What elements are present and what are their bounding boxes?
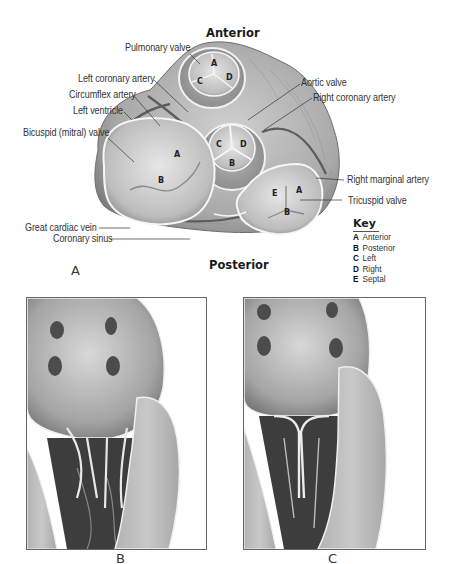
label-right-coronary-artery: Right coronary artery — [313, 91, 396, 103]
valve-open-illustration — [27, 298, 206, 549]
key-legend: Key AAnterior BPosterior CLeft DRight ES… — [353, 213, 402, 285]
label-right-marginal-artery: Right marginal artery — [347, 173, 429, 185]
figure-c-panel — [243, 297, 426, 550]
svg-text:B: B — [284, 208, 290, 217]
svg-text:A: A — [211, 59, 218, 68]
svg-text:D: D — [226, 73, 233, 82]
key-item: ESeptal — [353, 274, 395, 285]
svg-text:D: D — [240, 140, 247, 149]
label-aortic-valve: Aortic valve — [301, 76, 347, 88]
label-circumflex-artery: Circumflex artery — [69, 88, 136, 100]
label-left-ventricle: Left ventricle — [73, 104, 123, 116]
key-label: Posterior — [362, 242, 395, 253]
svg-text:B: B — [158, 176, 164, 185]
key-title: Key — [353, 217, 379, 232]
svg-text:C: C — [216, 140, 222, 149]
label-left-coronary-artery: Left coronary artery — [78, 72, 155, 84]
key-label: Anterior — [362, 231, 391, 242]
figure-b-panel — [26, 297, 207, 550]
label-bicuspid-mitral-valve: Bicuspid (mitral) valve — [23, 126, 109, 138]
key-label: Right — [362, 263, 381, 274]
key-label: Left — [362, 252, 376, 263]
anterior-label: Anterior — [206, 26, 260, 40]
valve-closed-illustration — [244, 298, 425, 549]
key-label: Septal — [362, 273, 385, 284]
pulmonary-valve — [179, 48, 245, 108]
label-tricuspid-valve: Tricuspid valve — [348, 194, 407, 206]
label-pulmonary-valve: Pulmonary valve — [125, 41, 190, 53]
svg-text:E: E — [272, 189, 277, 198]
svg-text:A: A — [296, 186, 303, 195]
mitral-valve — [103, 118, 214, 224]
posterior-label: Posterior — [209, 258, 269, 272]
label-coronary-sinus: Coronary sinus — [53, 232, 113, 244]
key-code: E — [353, 274, 362, 285]
svg-text:C: C — [197, 77, 203, 86]
svg-text:A: A — [174, 150, 181, 159]
panel-label-c: C — [328, 551, 337, 564]
panel-label-a: A — [71, 263, 80, 278]
panel-label-b: B — [116, 551, 125, 564]
svg-text:B: B — [229, 159, 235, 168]
